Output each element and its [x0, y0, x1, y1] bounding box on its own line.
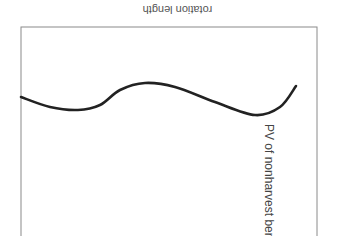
- chart-figure: [0, 0, 355, 236]
- y-axis-label: PV of nonharvest benefits: [262, 124, 276, 236]
- x-axis-label: rotation length: [0, 4, 355, 16]
- benefits-curve: [21, 83, 296, 115]
